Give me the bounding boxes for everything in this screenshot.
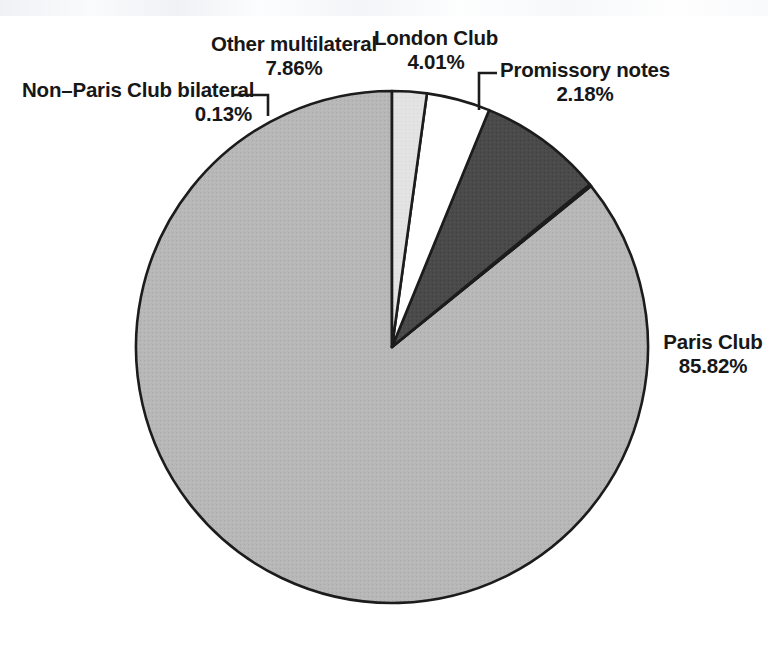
pie-label-non-paris-club-bilateral: Non–Paris Club bilateral 0.13% (22, 78, 252, 126)
pie-label-name: London Club (366, 26, 506, 50)
pie-label-percent: 85.82% (660, 354, 766, 378)
pie-label-percent: 4.01% (366, 50, 506, 74)
pie-label-percent: 7.86% (208, 56, 380, 80)
pie-label-name: Other multilateral (208, 32, 380, 56)
pie-label-paris-club: Paris Club 85.82% (660, 330, 766, 378)
pie-label-name: Non–Paris Club bilateral (22, 78, 252, 102)
pie-label-percent: 2.18% (492, 82, 678, 106)
pie-label-name: Promissory notes (492, 58, 678, 82)
pie-label-promissory-notes: Promissory notes 2.18% (492, 58, 678, 106)
pie-label-name: Paris Club (660, 330, 766, 354)
pie-chart: Non–Paris Club bilateral 0.13% Other mul… (0, 0, 768, 646)
pie-label-other-multilateral: Other multilateral 7.86% (208, 32, 380, 80)
pie-label-london-club: London Club 4.01% (366, 26, 506, 74)
pie-label-percent: 0.13% (22, 102, 252, 126)
pie-slices-group (136, 91, 648, 603)
